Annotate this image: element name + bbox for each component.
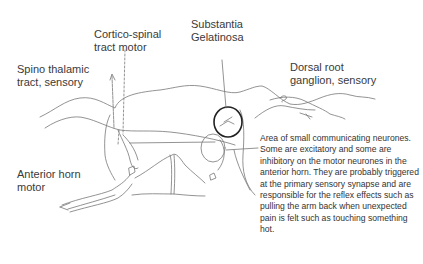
cortico-leader-line: [123, 50, 125, 134]
description-leader-line: [226, 148, 258, 150]
cord-dorsal-outline: [40, 85, 375, 117]
grey-matter-left-2: [123, 135, 138, 160]
label-cortico-spinal: Cortico-spinal tract motor: [94, 28, 161, 54]
substantia-leader-line: [222, 60, 226, 108]
label-spino-thalamic: Spino thalamic tract, sensory: [17, 63, 89, 89]
label-line: Substantia: [191, 18, 244, 31]
communicating-neurones-description: Area of small communicating neurones. So…: [260, 133, 420, 236]
motor-neuron-mark: [129, 166, 135, 175]
label-line: Anterior horn: [17, 168, 81, 181]
cord-left-outline: [105, 115, 115, 180]
label-line: tract, sensory: [17, 76, 89, 89]
dorsal-root-arrow: [300, 113, 312, 119]
dorsal-root-inner: [255, 106, 315, 118]
ventral-contour-left: [135, 154, 205, 183]
label-substantia-gelatinosa: Substantia Gelatinosa: [191, 18, 244, 44]
label-line: motor: [17, 181, 81, 194]
ventral-contour-base: [132, 194, 205, 196]
lateral-neuron-mark: [210, 173, 216, 180]
label-anterior-horn: Anterior horn motor: [17, 168, 81, 194]
spino-thalamic-arrow-shaft: [112, 76, 114, 128]
label-line: Dorsal root: [290, 61, 376, 74]
substantia-gelatinosa-region: [214, 107, 242, 137]
communicating-neurones-region: [201, 134, 225, 162]
label-line: Spino thalamic: [17, 63, 89, 76]
spino-dotted-down: [118, 130, 119, 145]
label-line: Cortico-spinal: [94, 28, 161, 41]
cord-midline: [45, 117, 235, 145]
grey-matter-left: [118, 130, 138, 169]
label-line: tract motor: [94, 41, 161, 54]
label-line: ganglion, sensory: [290, 74, 376, 87]
label-line: Gelatinosa: [191, 31, 244, 44]
anterior-fissure: [170, 155, 175, 194]
gelatinosa-inner-mark: [220, 117, 234, 126]
label-dorsal-root: Dorsal root ganglion, sensory: [290, 61, 376, 87]
